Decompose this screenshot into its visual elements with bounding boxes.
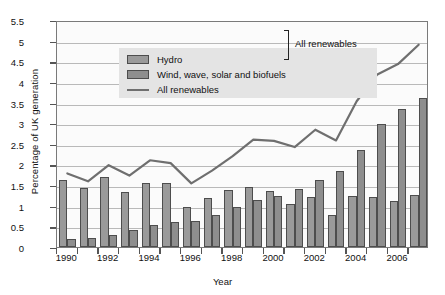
x-tick-mark bbox=[387, 248, 388, 254]
y-tick-label: 0 bbox=[0, 243, 24, 254]
y-tick-label: 1.5 bbox=[0, 181, 24, 192]
legend-item-wind: Wind, wave, solar and biofuels bbox=[127, 67, 371, 81]
y-tick-label: 1 bbox=[0, 201, 24, 212]
x-tick-mark bbox=[180, 248, 181, 254]
x-tick-label: 2006 bbox=[372, 252, 422, 263]
x-tick-mark bbox=[118, 248, 119, 254]
x-tick-mark bbox=[345, 248, 346, 254]
y-tick-label: 5.5 bbox=[0, 16, 24, 27]
y-tick-label: 4 bbox=[0, 77, 24, 88]
legend-item-all-renewables: All renewables bbox=[127, 82, 371, 96]
chart-figure: Percentage of UK generation Year 00.511.… bbox=[0, 0, 445, 295]
bracket-annotation-label: All renewables bbox=[295, 38, 357, 49]
x-tick-mark bbox=[242, 248, 243, 254]
bracket-annotation: All renewables bbox=[284, 28, 434, 64]
x-tick-mark bbox=[283, 248, 284, 254]
x-tick-mark bbox=[407, 248, 408, 254]
x-tick-mark bbox=[56, 248, 57, 254]
legend-label-wind: Wind, wave, solar and biofuels bbox=[157, 69, 286, 80]
hydro-swatch-icon bbox=[127, 55, 149, 64]
x-tick-mark bbox=[221, 248, 222, 254]
x-tick-mark bbox=[325, 248, 326, 254]
x-tick-mark bbox=[263, 248, 264, 254]
y-tick-label: 0.5 bbox=[0, 222, 24, 233]
y-tick-label: 3.5 bbox=[0, 98, 24, 109]
y-tick-label: 2 bbox=[0, 160, 24, 171]
x-tick-mark bbox=[77, 248, 78, 254]
x-tick-mark bbox=[366, 248, 367, 254]
y-tick-label: 3 bbox=[0, 119, 24, 130]
legend-label-hydro: Hydro bbox=[157, 54, 182, 65]
legend-label-all-renewables: All renewables bbox=[157, 84, 219, 95]
y-axis-title: Percentage of UK generation bbox=[29, 32, 40, 232]
x-axis-title: Year bbox=[0, 276, 445, 287]
x-tick-mark bbox=[97, 248, 98, 254]
line-swatch-icon bbox=[127, 85, 149, 94]
x-tick-mark bbox=[304, 248, 305, 254]
bracket-icon bbox=[284, 30, 289, 60]
x-tick-mark bbox=[159, 248, 160, 254]
x-tick-mark bbox=[201, 248, 202, 254]
y-tick-label: 2.5 bbox=[0, 139, 24, 150]
y-tick-label: 4.5 bbox=[0, 57, 24, 68]
wind-swatch-icon bbox=[127, 70, 149, 79]
x-tick-mark bbox=[139, 248, 140, 254]
y-tick-label: 5 bbox=[0, 36, 24, 47]
